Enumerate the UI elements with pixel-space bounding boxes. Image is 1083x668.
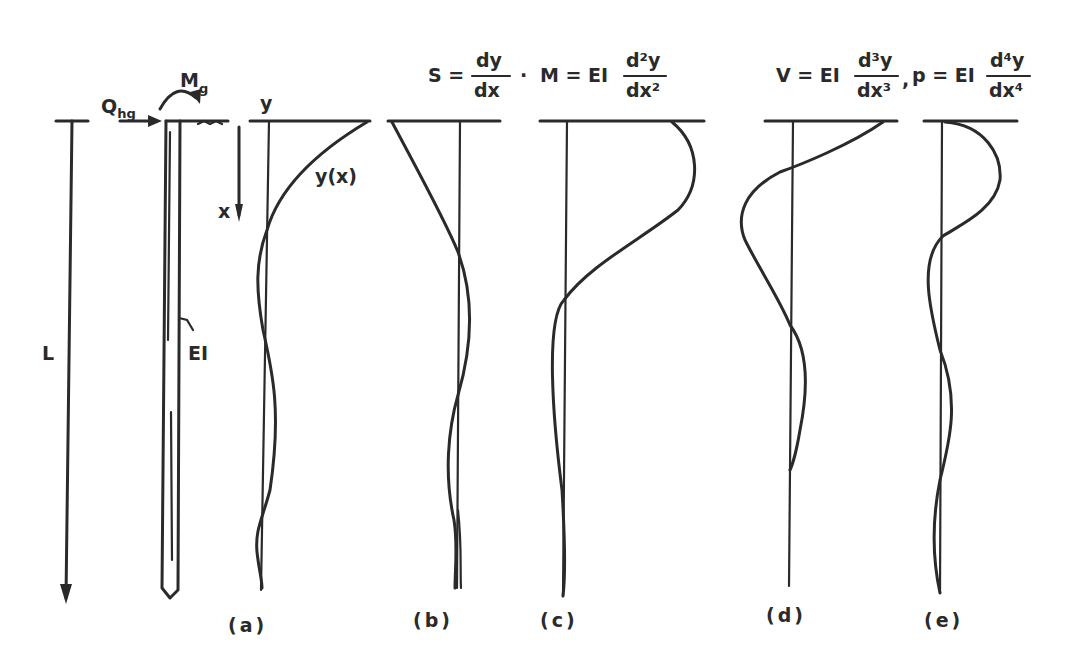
moment-arrow	[160, 89, 201, 109]
svg-text:V = EI: V = EI	[776, 64, 840, 86]
axis-d	[789, 121, 793, 586]
arrow-down-icon	[235, 204, 243, 222]
arrow-down-icon	[60, 584, 72, 604]
svg-text:S =: S =	[428, 64, 464, 86]
stiffness-leader	[179, 318, 193, 330]
svg-text:dy: dy	[476, 49, 503, 71]
deflection-curve-label: y(x)	[315, 165, 357, 187]
panel-a-deflection	[257, 121, 367, 590]
stiffness-label: EI	[188, 342, 208, 364]
svg-text:M = EI: M = EI	[540, 64, 608, 86]
panel-d-shear	[741, 121, 883, 586]
caption-e: (e)	[924, 609, 963, 631]
caption-a: (a)	[228, 614, 267, 636]
panel-e-pressure	[928, 121, 1000, 593]
depth-axis-arrow	[235, 127, 243, 222]
arrow-right-icon	[148, 115, 162, 127]
caption-d: (d)	[766, 604, 806, 626]
equation-separator: ·	[520, 64, 527, 86]
caption-b: (b)	[413, 609, 453, 631]
curve-e	[928, 122, 1000, 593]
deflection-axis-label: y	[260, 92, 273, 114]
svg-text:d⁴y: d⁴y	[990, 49, 1025, 71]
moment-equation: M = EI d²y dx²	[540, 49, 666, 101]
svg-text:dx⁴: dx⁴	[989, 79, 1023, 101]
pressure-equation: p = EI d⁴y dx⁴	[912, 49, 1030, 101]
curve-c	[552, 122, 694, 596]
caption-c: (c)	[540, 609, 578, 631]
depth-axis-label: x	[218, 200, 230, 222]
svg-text:dx³: dx³	[857, 79, 891, 101]
svg-text:d³y: d³y	[858, 49, 893, 71]
svg-text:dx: dx	[474, 79, 500, 101]
equation-separator-2: ,	[902, 68, 909, 90]
svg-text:p = EI: p = EI	[912, 64, 975, 86]
panel-b-slope	[392, 121, 470, 588]
shear-equation: V = EI d³y dx³	[776, 49, 898, 101]
svg-text:dx²: dx²	[626, 79, 660, 101]
slope-equation: S = dy dx	[428, 49, 510, 101]
length-label: L	[42, 342, 54, 364]
length-dimension	[60, 121, 72, 604]
curve-d	[741, 122, 883, 470]
lateral-load-label: Qhg	[101, 95, 136, 121]
panel-c-moment	[552, 121, 694, 596]
pile-diagram: L EI Qhg Mg x y y(x)	[0, 0, 1083, 668]
curve-a	[257, 122, 367, 588]
svg-text:d²y: d²y	[626, 49, 661, 71]
